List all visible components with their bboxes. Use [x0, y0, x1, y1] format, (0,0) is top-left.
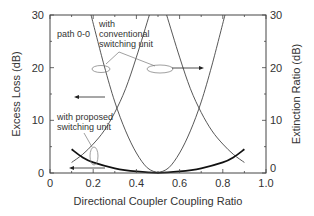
y-axis-title-right: Extinction Ratio (dB): [290, 44, 302, 144]
svg-text:switching unit: switching unit: [99, 39, 154, 49]
svg-text:with: with: [98, 19, 115, 29]
y-tick-label-right: 10: [270, 114, 282, 126]
y-tick-label: 20: [32, 62, 44, 74]
y-tick-label-right: 0: [270, 162, 276, 174]
y-axis-title-left: Excess Loss (dB): [10, 51, 22, 137]
annotation-path-0-0: path 0-0: [57, 29, 90, 39]
svg-text:with proposed: with proposed: [56, 112, 113, 122]
y-tick-labels-left: 0102030: [32, 9, 44, 179]
x-tick-label: 0.4: [129, 177, 144, 189]
svg-text:path 0-0: path 0-0: [57, 29, 90, 39]
y-tick-label: 10: [32, 114, 44, 126]
annotation-leaders: [84, 52, 173, 165]
arrow-icon-left-lower: [69, 166, 105, 170]
y-tick-labels-right: 0102030: [270, 9, 282, 174]
curve-series-1: [158, 15, 225, 173]
y-tick-label-right: 20: [270, 62, 282, 74]
annotation-conventional: with conventional switching unit: [98, 19, 154, 49]
y-tick-label: 0: [38, 167, 44, 179]
x-tick-label: 0.6: [172, 177, 187, 189]
svg-text:switching unit: switching unit: [57, 122, 112, 132]
data-curves: [72, 15, 245, 173]
y-tick-label-right: 30: [270, 9, 282, 21]
x-tick-label: 0.2: [86, 177, 101, 189]
x-tick-labels: 00.20.40.60.81.0: [47, 177, 274, 189]
chart: 00.20.40.60.81.0 0102030 0102030 Directi…: [0, 0, 314, 216]
x-tick-label: 1.0: [258, 177, 273, 189]
svg-text:conventional: conventional: [99, 29, 150, 39]
arrow-icon-right: [172, 66, 204, 70]
annotation-proposed: with proposed switching unit: [56, 112, 113, 132]
x-tick-label: 0: [47, 177, 53, 189]
y-tick-label: 30: [32, 9, 44, 21]
x-tick-label: 0.8: [215, 177, 230, 189]
x-axis-title: Directional Coupler Coupling Ratio: [74, 195, 243, 207]
arrow-icon-left-upper: [74, 95, 105, 99]
